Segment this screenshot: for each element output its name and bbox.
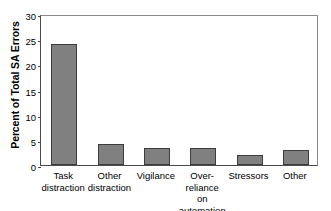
y-axis-tick-mark (38, 41, 41, 42)
bar (283, 150, 309, 165)
y-axis-tick-mark (38, 167, 41, 168)
y-axis-tick-label: 5 (5, 136, 41, 147)
bar (98, 144, 124, 165)
y-axis-tick-mark (38, 92, 41, 93)
y-axis-tick-label: 25 (5, 36, 41, 47)
y-axis-tick-mark (38, 117, 41, 118)
bar (190, 148, 216, 165)
y-axis-tick-label: 10 (5, 111, 41, 122)
plot-area: 051015202530 (40, 15, 318, 166)
x-axis-tick-label: Other (268, 170, 322, 182)
y-axis-tick-label: 15 (5, 86, 41, 97)
bar (144, 148, 170, 165)
chart-figure: Percent of Total SA Errors 051015202530 … (0, 0, 331, 211)
bar (237, 155, 263, 165)
y-axis-tick-label: 20 (5, 61, 41, 72)
y-axis-tick-mark (38, 142, 41, 143)
y-axis-tick-mark (38, 16, 41, 17)
bar (51, 44, 77, 165)
y-axis-tick-label: 30 (5, 11, 41, 22)
y-axis-tick-mark (38, 66, 41, 67)
